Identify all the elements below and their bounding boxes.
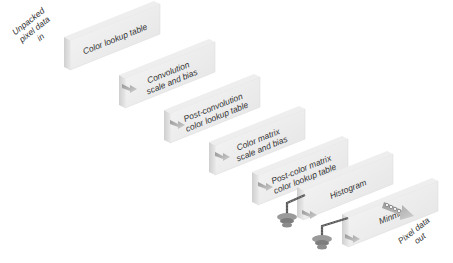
input-label: Unpackedpixel datain xyxy=(10,5,59,52)
stage-side xyxy=(164,110,170,143)
stage-side xyxy=(64,37,70,70)
stage-side xyxy=(252,172,258,205)
pixel-transfer-pipeline-diagram: Unpackedpixel datainColor lookup tableCo… xyxy=(0,0,453,263)
stage-side xyxy=(297,187,303,220)
stage-side xyxy=(119,75,125,108)
stage-color-lookup-table: Color lookup table xyxy=(64,1,160,70)
stage-side xyxy=(209,142,215,175)
